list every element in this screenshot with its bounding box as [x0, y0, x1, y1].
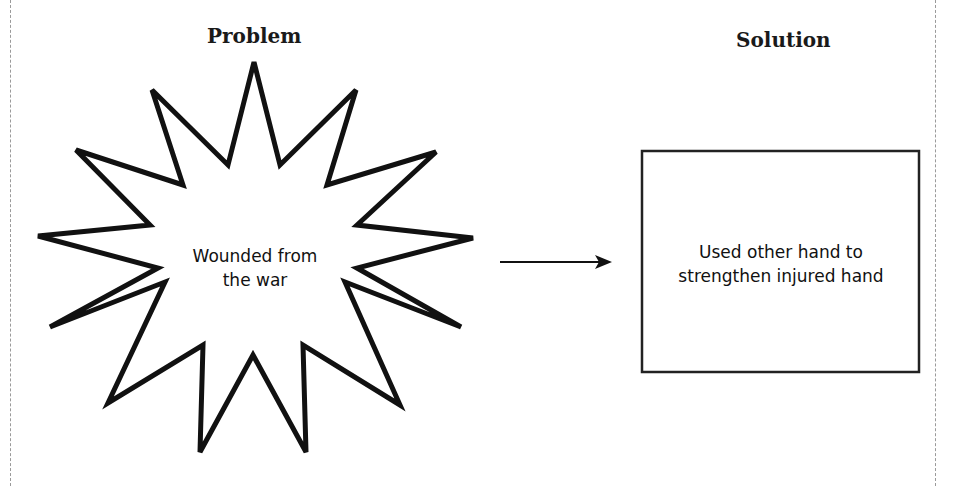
solution-text-line1: Used other hand to [643, 240, 919, 264]
solution-text-line2: strengthen injured hand [643, 264, 919, 288]
solution-text: Used other hand to strengthen injured ha… [643, 240, 919, 288]
problem-text-line1: Wounded from [160, 244, 350, 268]
problem-text-line2: the war [160, 268, 350, 292]
problem-text: Wounded from the war [160, 244, 350, 292]
